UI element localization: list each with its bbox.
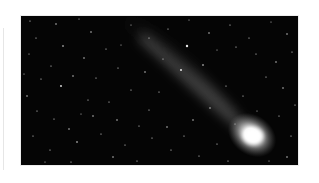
comet-photo (21, 16, 298, 165)
comet-image (21, 16, 298, 165)
page-edge-line (3, 28, 4, 170)
